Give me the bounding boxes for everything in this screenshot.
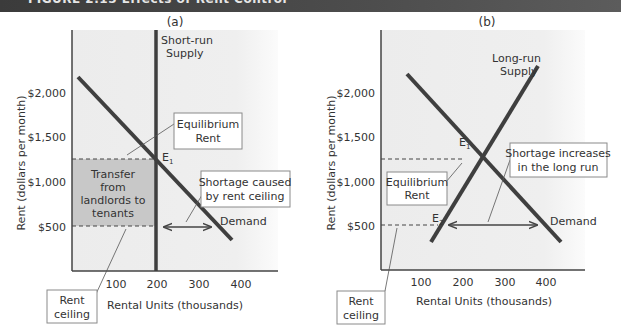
- callout-text: Equilibrium: [386, 176, 448, 189]
- x-tick-400: 400: [231, 278, 252, 291]
- callout-text: Rent: [348, 295, 374, 308]
- y-tick-500: $500: [38, 221, 66, 234]
- demand-label-b: Demand: [550, 215, 597, 228]
- x-tick-100: 100: [411, 276, 432, 289]
- callout-text: Equilibrium: [177, 118, 239, 131]
- x-tick-400: 400: [536, 276, 557, 289]
- svg-text:Transfer: Transfer: [90, 168, 136, 181]
- x-axis-title-a: Rental Units (thousands): [107, 299, 243, 312]
- callout-text: Shortage increases: [505, 147, 611, 160]
- x-tick-200: 200: [453, 276, 474, 289]
- y-tick-1500: $1,500: [337, 131, 376, 144]
- svg-text:from: from: [100, 181, 126, 194]
- callout-text: by rent ceiling: [206, 190, 285, 203]
- demand-label-a: Demand: [220, 215, 267, 228]
- chart-panel-b: (b) $2,000 $1,500 $1,000 $500 100 200 30…: [325, 15, 611, 324]
- x-tick-labels-b: 100 200 300 400: [411, 276, 557, 289]
- x-tick-300: 300: [189, 278, 210, 291]
- x-axis-title-b: Rental Units (thousands): [416, 295, 552, 308]
- figure-canvas: (a) $2,000 $1,500 $1,000 $500 100 200 30…: [0, 0, 621, 335]
- panel-b-label: (b): [479, 15, 496, 29]
- x-tick-200: 200: [147, 278, 168, 291]
- callout-text: Rent: [404, 189, 430, 202]
- callout-text: Shortage caused: [199, 176, 292, 189]
- y-tick-1000: $1,000: [337, 176, 376, 189]
- panel-a-label: (a): [167, 15, 184, 29]
- x-tick-100: 100: [106, 278, 127, 291]
- y-axis-title-b: Rent (dollars per month): [325, 95, 338, 230]
- svg-text:landlords to: landlords to: [80, 194, 145, 207]
- chart-panel-a: (a) $2,000 $1,500 $1,000 $500 100 200 30…: [15, 15, 291, 323]
- long-run-supply-label: Long-run Supply: [492, 52, 545, 78]
- callout-text: in the long run: [518, 161, 599, 174]
- callout-text: Rent: [195, 132, 221, 145]
- x-tick-300: 300: [495, 276, 516, 289]
- x-tick-labels-a: 100 200 300 400: [106, 278, 252, 291]
- y-axis-title-a: Rent (dollars per month): [15, 95, 28, 230]
- callout-text: ceiling: [54, 308, 90, 321]
- y-tick-labels-a: $2,000 $1,500 $1,000 $500: [28, 87, 67, 234]
- y-tick-2000: $2,000: [337, 87, 376, 100]
- y-tick-2000: $2,000: [28, 87, 67, 100]
- y-tick-labels-b: $2,000 $1,500 $1,000 $500: [337, 87, 376, 233]
- y-tick-1500: $1,500: [28, 131, 67, 144]
- y-tick-500: $500: [347, 220, 375, 233]
- y-tick-1000: $1,000: [28, 176, 67, 189]
- callout-text: Rent: [59, 294, 85, 307]
- svg-text:tenants: tenants: [92, 207, 134, 220]
- callout-text: ceiling: [343, 309, 379, 322]
- plot-area-a: [72, 30, 278, 271]
